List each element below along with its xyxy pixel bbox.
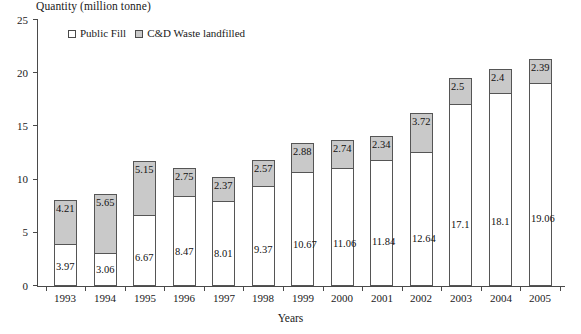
x-axis-title: Years bbox=[0, 312, 581, 324]
bar-group-1999[interactable]: 2.8810.67 bbox=[291, 143, 314, 286]
bar-value-label: 2.74 bbox=[333, 144, 351, 155]
bar-value-label: 2.4 bbox=[491, 73, 504, 84]
x-tick-1997 bbox=[204, 286, 205, 291]
bar-segment-cd-waste-2005[interactable]: 2.39 bbox=[529, 59, 552, 84]
bar-value-label: 5.15 bbox=[135, 165, 153, 176]
bar-segment-public-fill-1995[interactable]: 6.67 bbox=[133, 215, 156, 286]
bar-segment-cd-waste-1996[interactable]: 2.75 bbox=[173, 168, 196, 197]
x-tick-1995 bbox=[125, 286, 126, 291]
y-tick-15: 15 bbox=[33, 125, 38, 126]
bar-value-label: 8.01 bbox=[214, 249, 232, 260]
bar-group-1993[interactable]: 4.213.97 bbox=[54, 200, 77, 286]
bar-segment-public-fill-2001[interactable]: 11.84 bbox=[370, 160, 393, 286]
bar-segment-public-fill-1994[interactable]: 3.06 bbox=[94, 253, 117, 286]
x-tick-2004 bbox=[481, 286, 482, 291]
x-tick-2001 bbox=[362, 286, 363, 291]
bar-segment-cd-waste-1994[interactable]: 5.65 bbox=[94, 194, 117, 254]
bar-group-1997[interactable]: 2.378.01 bbox=[212, 177, 235, 286]
bar-segment-public-fill-2003[interactable]: 17.1 bbox=[449, 104, 472, 286]
bar-value-label: 5.65 bbox=[96, 198, 114, 209]
bar-group-2001[interactable]: 2.3411.84 bbox=[370, 136, 393, 286]
bar-segment-public-fill-1998[interactable]: 9.37 bbox=[252, 186, 275, 286]
bar-group-1998[interactable]: 2.579.37 bbox=[252, 160, 275, 286]
x-tick-2003 bbox=[441, 286, 442, 291]
stacked-bar-chart: Quantity (million tonne) Public Fill C&D… bbox=[0, 0, 581, 334]
y-tick-label: 25 bbox=[17, 14, 28, 26]
bar-value-label: 10.67 bbox=[293, 240, 317, 251]
bar-value-label: 2.34 bbox=[372, 140, 390, 151]
bar-value-label: 3.97 bbox=[56, 262, 74, 273]
bar-group-2000[interactable]: 2.7411.06 bbox=[331, 140, 354, 286]
x-label-2005: 2005 bbox=[517, 292, 563, 304]
y-axis-line bbox=[37, 20, 38, 287]
plot-area: 0510152025 4.213.975.653.065.156.672.758… bbox=[37, 20, 565, 287]
y-tick-0: 0 bbox=[33, 285, 38, 286]
bar-segment-cd-waste-1993[interactable]: 4.21 bbox=[54, 200, 77, 245]
x-tick-1999 bbox=[283, 286, 284, 291]
y-tick-label: 20 bbox=[17, 67, 28, 79]
bar-value-label: 17.1 bbox=[451, 220, 469, 231]
bar-value-label: 6.67 bbox=[135, 253, 153, 264]
bar-value-label: 2.88 bbox=[293, 147, 311, 158]
bar-segment-public-fill-2004[interactable]: 18.1 bbox=[489, 93, 512, 286]
bar-segment-cd-waste-1997[interactable]: 2.37 bbox=[212, 177, 235, 202]
bar-value-label: 12.64 bbox=[412, 234, 436, 245]
bar-value-label: 19.06 bbox=[531, 214, 555, 225]
bar-segment-cd-waste-2002[interactable]: 3.72 bbox=[410, 113, 433, 153]
bar-value-label: 4.21 bbox=[56, 204, 74, 215]
x-tick-2005 bbox=[520, 286, 521, 291]
y-tick-label: 15 bbox=[17, 120, 28, 132]
bar-value-label: 2.57 bbox=[254, 164, 272, 175]
bar-value-label: 2.5 bbox=[451, 82, 464, 93]
bar-value-label: 3.06 bbox=[96, 265, 114, 276]
bar-segment-cd-waste-1995[interactable]: 5.15 bbox=[133, 161, 156, 216]
bar-segment-public-fill-1999[interactable]: 10.67 bbox=[291, 172, 314, 286]
y-tick-10: 10 bbox=[33, 179, 38, 180]
bar-segment-public-fill-2005[interactable]: 19.06 bbox=[529, 83, 552, 286]
bar-segment-public-fill-1996[interactable]: 8.47 bbox=[173, 196, 196, 286]
bar-value-label: 9.37 bbox=[254, 245, 272, 256]
y-axis-title: Quantity (million tonne) bbox=[36, 0, 151, 12]
x-tick-end bbox=[560, 286, 561, 291]
x-tick-2000 bbox=[323, 286, 324, 291]
x-tick-2002 bbox=[402, 286, 403, 291]
y-tick-20: 20 bbox=[33, 72, 38, 73]
x-tick-1996 bbox=[164, 286, 165, 291]
bar-group-1994[interactable]: 5.653.06 bbox=[94, 194, 117, 286]
bar-segment-cd-waste-2004[interactable]: 2.4 bbox=[489, 69, 512, 95]
bar-value-label: 2.39 bbox=[531, 63, 549, 74]
bar-value-label: 2.37 bbox=[214, 181, 232, 192]
bar-group-2003[interactable]: 2.517.1 bbox=[449, 78, 472, 286]
y-tick-label: 0 bbox=[23, 280, 29, 292]
bar-segment-public-fill-1993[interactable]: 3.97 bbox=[54, 244, 77, 286]
bar-group-1996[interactable]: 2.758.47 bbox=[173, 168, 196, 286]
bar-value-label: 18.1 bbox=[491, 217, 509, 228]
y-tick-label: 5 bbox=[23, 226, 29, 238]
bar-segment-public-fill-1997[interactable]: 8.01 bbox=[212, 201, 235, 286]
y-tick-label: 10 bbox=[17, 173, 28, 185]
bar-value-label: 11.06 bbox=[333, 239, 356, 250]
y-tick-25: 25 bbox=[33, 19, 38, 20]
bar-segment-cd-waste-1999[interactable]: 2.88 bbox=[291, 143, 314, 174]
bar-segment-cd-waste-2000[interactable]: 2.74 bbox=[331, 140, 354, 169]
bar-value-label: 11.84 bbox=[372, 237, 395, 248]
bar-group-2002[interactable]: 3.7212.64 bbox=[410, 113, 433, 286]
bar-value-label: 2.75 bbox=[175, 172, 193, 183]
bar-segment-cd-waste-1998[interactable]: 2.57 bbox=[252, 160, 275, 187]
bar-group-1995[interactable]: 5.156.67 bbox=[133, 161, 156, 286]
x-tick-1998 bbox=[243, 286, 244, 291]
bar-segment-cd-waste-2003[interactable]: 2.5 bbox=[449, 78, 472, 105]
bar-value-label: 3.72 bbox=[412, 117, 430, 128]
bar-group-2005[interactable]: 2.3919.06 bbox=[529, 59, 552, 286]
bar-segment-cd-waste-2001[interactable]: 2.34 bbox=[370, 136, 393, 161]
y-tick-5: 5 bbox=[33, 232, 38, 233]
x-tick-1994 bbox=[85, 286, 86, 291]
bar-group-2004[interactable]: 2.418.1 bbox=[489, 69, 512, 286]
bar-segment-public-fill-2002[interactable]: 12.64 bbox=[410, 152, 433, 286]
bar-segment-public-fill-2000[interactable]: 11.06 bbox=[331, 168, 354, 286]
x-axis-line bbox=[37, 286, 565, 287]
bar-value-label: 8.47 bbox=[175, 247, 193, 258]
x-tick-1993 bbox=[46, 286, 47, 291]
